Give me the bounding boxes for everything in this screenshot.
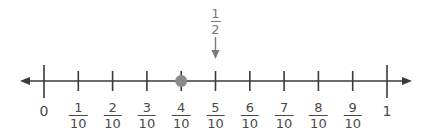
right-arrow-icon <box>402 77 412 85</box>
numerator: 8 <box>309 101 328 114</box>
tick-fraction-label: 710 <box>275 101 294 130</box>
half-denominator: 2 <box>210 23 220 36</box>
tick-label: 0 <box>40 104 49 118</box>
numerator: 9 <box>343 101 362 114</box>
tick-fraction-label: 910 <box>343 101 362 130</box>
left-arrow-icon <box>20 77 30 85</box>
denominator: 10 <box>206 117 225 130</box>
tick-fraction-label: 110 <box>69 101 88 130</box>
numerator: 4 <box>172 101 191 114</box>
numerator: 3 <box>138 101 157 114</box>
numerator: 7 <box>275 101 294 114</box>
point-marker <box>175 75 187 87</box>
numerator: 1 <box>69 101 88 114</box>
denominator: 10 <box>343 117 362 130</box>
denominator: 10 <box>138 117 157 130</box>
denominator: 10 <box>309 117 328 130</box>
denominator: 10 <box>275 117 294 130</box>
half-label: 1 2 <box>210 7 220 36</box>
denominator: 10 <box>69 117 88 130</box>
tick-label: 1 <box>383 104 392 118</box>
numerator: 5 <box>206 101 225 114</box>
tick-fraction-label: 310 <box>138 101 157 130</box>
numerator: 6 <box>241 101 260 114</box>
denominator: 10 <box>172 117 191 130</box>
tick-fraction-label: 810 <box>309 101 328 130</box>
tick-fraction-label: 210 <box>103 101 122 130</box>
tick-fraction-label: 610 <box>241 101 260 130</box>
number-line-diagram: 01102103104105106107108109101 1 2 <box>0 0 435 136</box>
half-arrow-icon <box>212 37 220 59</box>
half-numerator: 1 <box>210 7 220 20</box>
tick-fraction-label: 410 <box>172 101 191 130</box>
denominator: 10 <box>241 117 260 130</box>
numerator: 2 <box>103 101 122 114</box>
denominator: 10 <box>103 117 122 130</box>
tick-fraction-label: 510 <box>206 101 225 130</box>
